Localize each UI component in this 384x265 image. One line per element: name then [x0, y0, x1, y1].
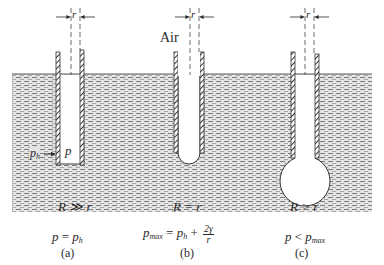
caption-c: (c) — [295, 246, 308, 261]
caption-b: (b) — [180, 246, 194, 261]
equation-b: pmax = ph + 2γr — [143, 224, 214, 245]
radius-relation-c: R > r — [290, 199, 318, 215]
outer-pressure-label: ph — [30, 146, 40, 161]
equation-c: p < pmax — [285, 229, 325, 245]
radius-label-c: r — [306, 8, 310, 20]
inner-pressure-label: p — [65, 143, 72, 159]
radius-label-a: r — [72, 8, 76, 20]
air-label: Air — [160, 30, 179, 46]
caption-a: (a) — [61, 246, 74, 261]
radius-label-b: r — [191, 8, 195, 20]
equation-a: p = ph — [52, 229, 83, 245]
radius-relation-b: R = r — [173, 199, 201, 215]
radius-relation-a: R ≫ r — [58, 199, 92, 215]
